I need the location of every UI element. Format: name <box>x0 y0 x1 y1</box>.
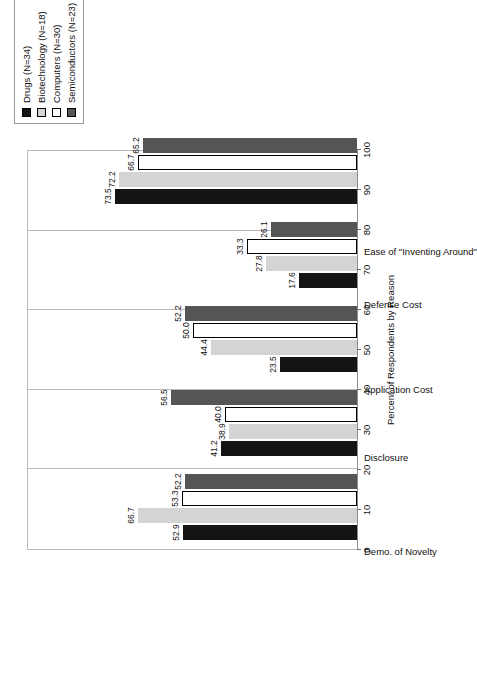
bar-fill <box>171 390 357 405</box>
chart-legend: Drugs (N=34)Biotechnology (N=18)Computer… <box>14 0 84 124</box>
bar[interactable]: 72.2 <box>119 172 357 187</box>
bar-fill <box>221 441 357 456</box>
legend-swatch-icon <box>37 108 46 117</box>
legend-item[interactable]: Drugs (N=34) <box>20 3 33 117</box>
category-axis-label-text: Application Cost <box>364 384 433 395</box>
bar-fill <box>182 491 357 506</box>
legend-item[interactable]: Semiconductors (N=23) <box>65 3 78 117</box>
legend-swatch-icon <box>67 108 76 117</box>
bar[interactable]: 65.2 <box>143 138 358 153</box>
bar-fill <box>185 306 357 321</box>
legend-item-label: Computers (N=30) <box>52 25 62 103</box>
bar[interactable]: 40.0 <box>225 407 357 422</box>
bar-fill <box>185 474 357 489</box>
bar[interactable]: 53.3 <box>182 491 357 506</box>
bar-fill <box>266 256 357 271</box>
bar[interactable]: 33.3 <box>247 239 357 254</box>
legend-item[interactable]: Biotechnology (N=18) <box>35 3 48 117</box>
legend-item-label: Semiconductors (N=23) <box>67 3 77 103</box>
bar[interactable]: 26.1 <box>271 222 357 237</box>
plot-area: 52.966.753.352.241.238.940.056.523.544.4… <box>27 150 357 550</box>
bar-fill <box>119 172 357 187</box>
bar[interactable]: 17.6 <box>299 273 357 288</box>
bar[interactable]: 52.2 <box>185 306 357 321</box>
bar-value-label: 17.6 <box>288 272 297 289</box>
bar-fill <box>247 239 357 254</box>
bar-groups: 52.966.753.352.241.238.940.056.523.544.4… <box>28 151 357 549</box>
bar-group: 41.238.940.056.5 <box>28 381 357 465</box>
bar-value-label: 66.7 <box>127 507 136 524</box>
bar[interactable]: 27.8 <box>266 256 357 271</box>
category-axis-label: Ease of "Inventing Around" <box>362 150 414 230</box>
bar[interactable]: 38.9 <box>229 424 357 439</box>
bar-value-label: 23.5 <box>269 356 278 373</box>
bar-fill <box>229 424 357 439</box>
category-axis-label-text: Ease of "Inventing Around" <box>364 246 477 257</box>
bar-group: 52.966.753.352.2 <box>28 465 357 549</box>
category-axis-label: Application Cost <box>362 310 414 390</box>
bar-value-label: 50.0 <box>182 322 191 339</box>
bar-fill <box>138 155 357 170</box>
bar[interactable]: 41.2 <box>221 441 357 456</box>
category-axis-label: Demo. of Novelty <box>362 470 414 550</box>
bar-value-label: 27.8 <box>255 255 264 272</box>
bar[interactable]: 66.7 <box>138 155 357 170</box>
bar-fill <box>280 357 357 372</box>
bar-fill <box>225 407 357 422</box>
bar-group: 23.544.450.052.2 <box>28 297 357 381</box>
bar-value-label: 66.7 <box>127 154 136 171</box>
bar-value-label: 65.2 <box>132 137 141 154</box>
bar-fill <box>183 525 357 540</box>
legend-item-label: Drugs (N=34) <box>22 46 32 103</box>
legend-item[interactable]: Computers (N=30) <box>50 3 63 117</box>
legend-swatch-icon <box>52 108 61 117</box>
bar-value-label: 72.2 <box>108 171 117 188</box>
bar-group: 17.627.833.326.1 <box>28 213 357 297</box>
bar-value-label: 73.5 <box>104 188 113 205</box>
bar[interactable]: 73.5 <box>115 189 357 204</box>
bar[interactable]: 52.2 <box>185 474 357 489</box>
bar-value-label: 38.9 <box>218 423 227 440</box>
bar-value-label: 44.4 <box>200 339 209 356</box>
bar-fill <box>138 508 357 523</box>
category-axis: Demo. of NoveltyDisclosureApplication Co… <box>362 150 414 550</box>
legend-swatch-icon <box>22 108 31 117</box>
bar-group: 73.572.266.765.2 <box>28 129 357 213</box>
bar[interactable]: 50.0 <box>193 323 358 338</box>
bar-fill <box>271 222 357 237</box>
bar-fill <box>211 340 357 355</box>
bar[interactable]: 52.9 <box>183 525 357 540</box>
bar-fill <box>143 138 358 153</box>
category-axis-label: Disclosure <box>362 390 414 470</box>
bar[interactable]: 44.4 <box>211 340 357 355</box>
bar-value-label: 33.3 <box>236 238 245 255</box>
bar-value-label: 52.2 <box>174 305 183 322</box>
category-axis-label-text: Demo. of Novelty <box>364 546 437 557</box>
bar-fill <box>193 323 358 338</box>
bar[interactable]: 66.7 <box>138 508 357 523</box>
bar-fill <box>115 189 357 204</box>
bar-value-label: 52.2 <box>174 473 183 490</box>
bar-value-label: 41.2 <box>210 440 219 457</box>
bar-value-label: 26.1 <box>260 221 269 238</box>
bar[interactable]: 23.5 <box>280 357 357 372</box>
category-axis-label: Defense Cost <box>362 230 414 310</box>
bar-value-label: 53.3 <box>171 490 180 507</box>
category-axis-label-text: Defense Cost <box>364 299 422 310</box>
bar-value-label: 40.0 <box>214 406 223 423</box>
bar-value-label: 52.9 <box>172 524 181 541</box>
legend-item-label: Biotechnology (N=18) <box>37 11 47 103</box>
bar-fill <box>299 273 357 288</box>
bar[interactable]: 56.5 <box>171 390 357 405</box>
bar-value-label: 56.5 <box>160 389 169 406</box>
category-axis-label-text: Disclosure <box>364 452 408 463</box>
